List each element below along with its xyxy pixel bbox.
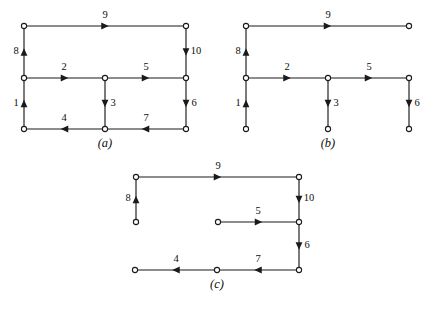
- graph-node-bottom-center: [214, 267, 219, 272]
- edge-label-4: 4: [61, 112, 67, 123]
- edge-label-6: 6: [191, 97, 196, 108]
- arrow-head-icon: [142, 75, 150, 82]
- graph-node-bottom-right: [296, 267, 301, 272]
- arrow-head-icon: [324, 23, 332, 30]
- graph-node-middle-left: [243, 75, 248, 80]
- edge-c-7: 7: [217, 253, 299, 273]
- arrow-head-icon: [255, 219, 263, 226]
- arrow-head-icon: [296, 242, 303, 250]
- graph-node-top-left: [243, 23, 248, 28]
- edge-label-7: 7: [255, 253, 260, 264]
- edge-c-6: 6: [296, 222, 310, 270]
- graph-node-bottom-left: [243, 126, 248, 131]
- arrow-head-icon: [214, 174, 222, 181]
- edge-b-5: 5: [328, 61, 409, 81]
- arrow-head-icon: [183, 100, 190, 108]
- arrow-head-icon: [61, 75, 69, 82]
- edge-a-1: 1: [13, 78, 27, 129]
- graph-node-bottom-left: [21, 126, 26, 131]
- edge-a-3: 3: [102, 78, 116, 129]
- graph-node-middle-center: [215, 219, 220, 224]
- arrow-head-icon: [406, 100, 413, 108]
- edge-label-9: 9: [102, 9, 107, 20]
- edge-c-8: 8: [125, 177, 139, 222]
- edge-label-4: 4: [173, 253, 179, 264]
- graph-node-top-right: [183, 23, 188, 28]
- arrow-head-icon: [183, 48, 190, 56]
- graph-node-top-left: [21, 23, 26, 28]
- edge-label-3: 3: [333, 97, 338, 108]
- arrow-head-icon: [325, 100, 332, 108]
- graph-panels-svg: 12345678910123568945678910: [0, 0, 432, 309]
- graph-node-middle-right: [183, 75, 188, 80]
- edge-c-4: 4: [135, 253, 217, 273]
- figure-canvas: 12345678910123568945678910 (a)(b)(c): [0, 0, 432, 309]
- edge-label-5: 5: [255, 205, 260, 216]
- arrow-head-icon: [102, 100, 109, 108]
- graph-node-middle-left: [21, 75, 26, 80]
- graph-node-top-right: [296, 174, 301, 179]
- edge-label-6: 6: [414, 97, 419, 108]
- edge-label-8: 8: [125, 192, 130, 203]
- edge-label-7: 7: [143, 112, 148, 123]
- arrow-head-icon: [21, 48, 28, 56]
- graph-node-bottom-left: [132, 267, 137, 272]
- panel-caption-c: (c): [197, 277, 237, 292]
- edge-a-10: 10: [183, 26, 202, 78]
- edge-a-6: 6: [183, 78, 197, 129]
- edge-label-9: 9: [325, 9, 330, 20]
- edge-c-5: 5: [218, 205, 299, 225]
- edge-a-7: 7: [105, 112, 186, 132]
- panel-caption-b: (b): [308, 136, 348, 151]
- edge-a-4: 4: [24, 112, 105, 132]
- arrow-head-icon: [21, 100, 28, 108]
- edge-b-3: 3: [325, 78, 339, 129]
- arrow-head-icon: [172, 267, 180, 274]
- arrow-head-icon: [61, 126, 69, 133]
- edge-b-9: 9: [246, 9, 409, 29]
- graph-node-middle-right: [296, 219, 301, 224]
- arrow-head-icon: [283, 75, 291, 82]
- panel-caption-a: (a): [85, 136, 125, 151]
- arrow-head-icon: [243, 100, 250, 108]
- arrow-head-icon: [296, 196, 303, 204]
- edge-b-2: 2: [246, 61, 328, 81]
- arrow-head-icon: [365, 75, 373, 82]
- edge-label-9: 9: [215, 160, 220, 171]
- edge-label-1: 1: [235, 97, 240, 108]
- edge-label-10: 10: [304, 192, 315, 203]
- edge-label-2: 2: [284, 61, 289, 72]
- graph-node-bottom-center: [102, 126, 107, 131]
- edge-label-8: 8: [13, 45, 18, 56]
- graph-node-middle-right: [406, 75, 411, 80]
- edge-label-5: 5: [143, 61, 148, 72]
- graph-node-bottom-center: [325, 126, 330, 131]
- edge-label-3: 3: [110, 97, 115, 108]
- edge-label-5: 5: [366, 61, 371, 72]
- edge-label-10: 10: [191, 45, 202, 56]
- graph-node-middle-center: [325, 75, 330, 80]
- arrow-head-icon: [101, 23, 109, 30]
- edge-label-1: 1: [13, 97, 18, 108]
- arrow-head-icon: [142, 126, 150, 133]
- edge-c-10: 10: [296, 177, 315, 222]
- graph-node-bottom-right: [183, 126, 188, 131]
- arrow-head-icon: [243, 48, 250, 56]
- edge-b-8: 8: [235, 26, 249, 78]
- graph-panel-c: 45678910: [125, 160, 314, 273]
- edge-a-2: 2: [24, 61, 105, 81]
- graph-node-middle-left-stub: [133, 219, 138, 224]
- edge-a-9: 9: [24, 9, 186, 29]
- graph-node-bottom-right: [406, 126, 411, 131]
- arrow-head-icon: [133, 196, 140, 204]
- graph-panel-b: 1235689: [235, 9, 419, 131]
- arrow-head-icon: [254, 267, 262, 274]
- graph-panel-a: 12345678910: [13, 9, 201, 132]
- graph-node-top-left: [133, 174, 138, 179]
- edge-b-1: 1: [235, 78, 249, 129]
- edge-label-2: 2: [61, 61, 66, 72]
- edge-b-6: 6: [406, 78, 420, 129]
- graph-node-top-right: [406, 23, 411, 28]
- edge-label-8: 8: [235, 45, 240, 56]
- edge-c-9: 9: [136, 160, 299, 180]
